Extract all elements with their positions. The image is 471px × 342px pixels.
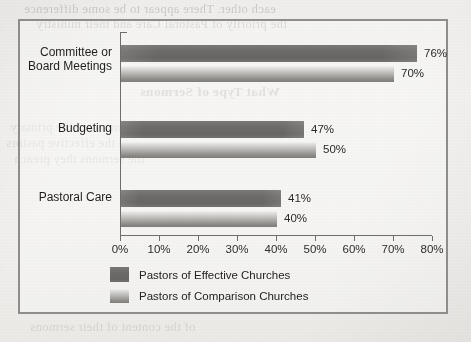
legend-swatch-icon-effective (110, 267, 129, 282)
x-axis-tick (159, 236, 160, 241)
category-label-pastoral-care: Pastoral Care (14, 190, 112, 204)
bar-value-comparison-committee: 70% (401, 65, 424, 82)
x-axis-tick-label: 50% (303, 243, 326, 255)
x-axis-tick (393, 236, 394, 241)
bar-value-effective-budgeting: 47% (311, 121, 334, 138)
legend-item-comparison[interactable]: Pastors of Comparison Churches (110, 285, 308, 306)
legend-label-effective: Pastors of Effective Churches (139, 269, 290, 281)
bar-comparison-budgeting[interactable] (121, 141, 316, 158)
x-axis-tick (237, 236, 238, 241)
x-axis-tick-label: 10% (147, 243, 170, 255)
bar-comparison-pastoral-care[interactable] (121, 210, 277, 227)
bar-effective-committee[interactable] (121, 45, 417, 62)
x-axis-tick (354, 236, 355, 241)
category-label-budgeting: Budgeting (14, 121, 112, 135)
x-axis-tick-label: 80% (420, 243, 443, 255)
x-axis-tick-label: 30% (225, 243, 248, 255)
legend-swatch-icon-comparison (110, 288, 129, 303)
legend-label-comparison: Pastors of Comparison Churches (139, 290, 308, 302)
x-axis-tick (198, 236, 199, 241)
scanned-page-background: each other. There appear to be some diff… (0, 0, 471, 342)
chart-frame: Committee or Board Meetings Budgeting Pa… (18, 19, 448, 314)
bar-value-effective-pastoral-care: 41% (288, 190, 311, 207)
bar-effective-pastoral-care[interactable] (121, 190, 281, 207)
bar-value-comparison-budgeting: 50% (323, 141, 346, 158)
x-axis-tick-label: 70% (381, 243, 404, 255)
x-axis-tick-label: 0% (112, 243, 129, 255)
bar-value-comparison-pastoral-care: 40% (284, 210, 307, 227)
bleed-through-text-line-1: each other. There appear to be some diff… (24, 2, 276, 17)
x-axis-tick (432, 236, 433, 241)
x-axis-tick-label: 20% (186, 243, 209, 255)
plot-area: 0% 10% 20% 30% 40% 50% 60% 70% 80% 76% 7… (120, 32, 432, 236)
x-axis-tick-label: 60% (342, 243, 365, 255)
bar-comparison-committee[interactable] (121, 65, 394, 82)
axis-top-cap (120, 32, 127, 33)
category-label-committee: Committee or Board Meetings (14, 45, 112, 73)
x-axis-tick (315, 236, 316, 241)
bar-effective-budgeting[interactable] (121, 121, 304, 138)
legend-item-effective[interactable]: Pastors of Effective Churches (110, 264, 308, 285)
bleed-through-footer: of the content of their sermons (30, 320, 195, 335)
bar-value-effective-committee: 76% (424, 45, 447, 62)
x-axis-tick (276, 236, 277, 241)
x-axis-tick (120, 236, 121, 241)
x-axis-tick-label: 40% (264, 243, 287, 255)
chart-legend: Pastors of Effective Churches Pastors of… (110, 264, 308, 306)
